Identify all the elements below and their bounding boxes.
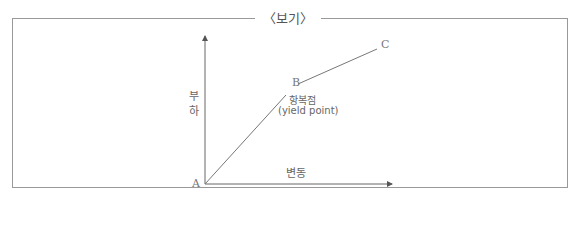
point-a-label: A (192, 177, 200, 190)
y-axis-label-1: 부 (189, 87, 199, 103)
x-axis-label: 변동 (286, 164, 306, 180)
segment-ab (205, 95, 286, 184)
point-b-label: B (292, 76, 300, 89)
y-axis-label-2: 하 (189, 102, 199, 118)
yield-point-english: (yield point) (278, 105, 338, 116)
point-c-label: C (381, 38, 389, 51)
segment-bc (298, 49, 377, 84)
